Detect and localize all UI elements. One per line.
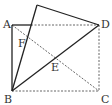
label-D: D [101,18,110,31]
label-E: E [51,61,59,74]
solid-PD [37,5,99,25]
label-B: B [4,93,12,105]
label-F: F [18,37,26,50]
geometry-diagram: A D F E B C [0,0,112,105]
label-C: C [101,93,109,105]
label-A: A [2,18,12,31]
